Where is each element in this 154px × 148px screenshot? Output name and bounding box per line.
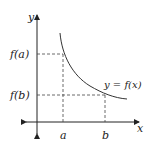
- tick-label-fa: f(a): [9, 48, 29, 61]
- tick-label-b: b: [102, 129, 109, 142]
- function-graph: y x f(a) f(b) a b y = f(x): [0, 0, 154, 148]
- tick-label-fb: f(b): [9, 89, 30, 102]
- curve-label: y = f(x): [103, 79, 142, 90]
- y-axis-label: y: [27, 11, 35, 24]
- x-axis-label: x: [137, 122, 144, 135]
- tick-label-a: a: [60, 129, 67, 142]
